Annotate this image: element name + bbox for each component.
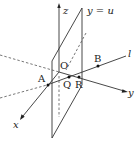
y-axis-negative-dashed	[0, 55, 59, 72]
point-q-label: Q	[63, 79, 71, 90]
point-b	[97, 65, 100, 68]
line-l-dashed	[0, 85, 47, 98]
plane-y-equals-u	[52, 8, 82, 138]
plane-label: y = u	[86, 5, 114, 16]
point-a	[47, 84, 50, 87]
z-axis-arrow-icon	[57, 3, 60, 8]
x-axis-label: x	[13, 119, 19, 130]
y-axis-label: y	[127, 87, 134, 98]
point-b-label: B	[94, 53, 101, 64]
point-r-label: R	[75, 79, 83, 90]
hidden-line-dashed	[66, 33, 86, 70]
origin-label: O	[60, 60, 68, 71]
coordinate-diagram: z y = u O B l A Q R y x	[0, 0, 137, 143]
point-a-label: A	[37, 73, 46, 84]
z-axis-label: z	[62, 5, 69, 16]
line-l-label: l	[128, 48, 131, 59]
